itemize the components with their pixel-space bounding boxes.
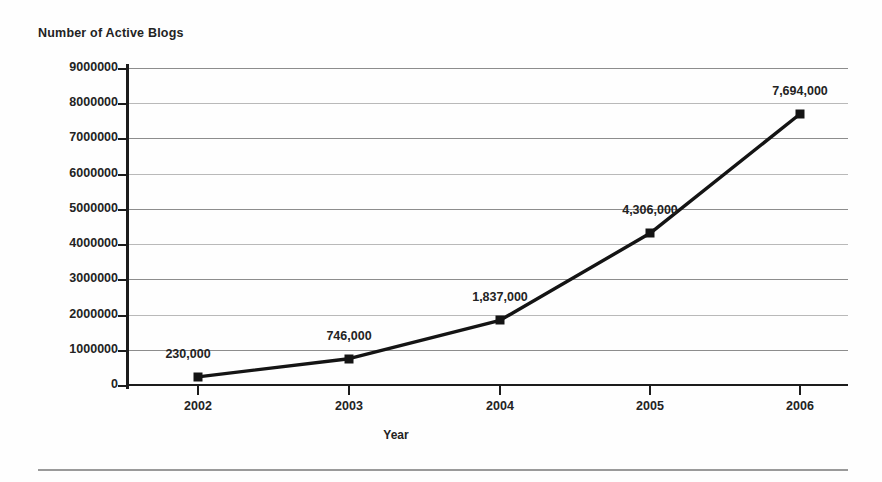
- data-point-label: 1,837,000: [472, 290, 528, 304]
- gridline: [128, 279, 848, 280]
- y-axis-line: [126, 64, 129, 389]
- data-point-marker: [345, 354, 354, 363]
- data-point-label: 746,000: [326, 329, 371, 343]
- y-axis-tick-label: 5000000: [69, 201, 118, 215]
- x-axis-tick-label: 2004: [486, 399, 514, 413]
- plot-area: [128, 68, 848, 385]
- gridline: [128, 138, 848, 139]
- x-axis-tick-mark: [649, 385, 651, 395]
- x-axis-tick-label: 2003: [335, 399, 363, 413]
- data-point-marker: [194, 372, 203, 381]
- data-point-label: 4,306,000: [622, 203, 678, 217]
- y-axis-tick-label: 3000000: [69, 271, 118, 285]
- x-axis-tick-label: 2005: [636, 399, 664, 413]
- gridline: [128, 209, 848, 210]
- y-axis-tick-label: 9000000: [69, 60, 118, 74]
- gridline: [128, 103, 848, 104]
- y-axis-tick-label: 2000000: [69, 307, 118, 321]
- y-axis-tick-label: 4000000: [69, 236, 118, 250]
- x-axis-line: [128, 384, 848, 386]
- x-axis-title: Year: [0, 428, 882, 442]
- y-axis-tick-label: 1000000: [69, 342, 118, 356]
- x-axis-tick-mark: [499, 385, 501, 395]
- y-axis-tick-label: 8000000: [69, 95, 118, 109]
- data-point-marker: [796, 110, 805, 119]
- y-axis-tick-label: 0: [111, 377, 118, 391]
- data-point-marker: [646, 229, 655, 238]
- x-axis-tick-label: 2006: [786, 399, 814, 413]
- chart-title: Number of Active Blogs: [38, 26, 184, 40]
- x-axis-tick-mark: [197, 385, 199, 395]
- y-axis-tick-label: 6000000: [69, 166, 118, 180]
- x-axis-title-text: Year: [383, 428, 408, 442]
- y-axis-tick-label: 7000000: [69, 130, 118, 144]
- data-point-label: 7,694,000: [772, 84, 828, 98]
- data-point-marker: [496, 316, 505, 325]
- gridline: [128, 174, 848, 175]
- gridline: [128, 244, 848, 245]
- x-axis-tick-label: 2002: [184, 399, 212, 413]
- bottom-divider: [38, 469, 848, 471]
- gridline: [128, 68, 848, 69]
- gridline: [128, 350, 848, 351]
- x-axis-tick-mark: [348, 385, 350, 395]
- gridline: [128, 315, 848, 316]
- chart-figure: Number of Active Blogs 90000008000000700…: [0, 0, 882, 482]
- x-axis-tick-mark: [799, 385, 801, 395]
- data-point-label: 230,000: [165, 347, 210, 361]
